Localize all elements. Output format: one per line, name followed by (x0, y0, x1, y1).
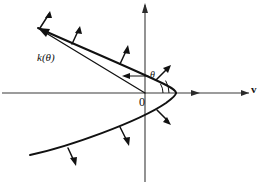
normal-arrow-upper-3 (156, 65, 171, 80)
horizontal-axis-inner-arrowhead (191, 90, 200, 96)
horizontal-axis-label-v: v (251, 84, 257, 95)
normal-arrowhead (45, 11, 52, 18)
normal-arrowhead (123, 137, 130, 146)
angle-pointer-arrowhead (122, 73, 130, 79)
normal-arrow-upper-2 (120, 45, 130, 64)
horizontal-axis (2, 90, 249, 96)
normal-arrowhead (70, 157, 77, 166)
normal-arrow-lower-1 (157, 110, 171, 125)
origin-label: 0 (139, 96, 145, 108)
vertical-axis-arrowhead-top (142, 3, 148, 13)
normal-arrowhead (123, 45, 130, 54)
radial-ray-shaft (46, 33, 145, 93)
parabola-lower-branch (30, 93, 176, 155)
normal-arrow-upper-endpoint (40, 11, 52, 28)
normal-arrowhead (75, 26, 82, 34)
parabola-curve-group (30, 28, 176, 155)
normal-arrow-lower-3 (68, 148, 77, 166)
angle-arc-inner (160, 84, 163, 93)
angle-arc-outer (166, 81, 169, 93)
normal-arrow-upper-1 (72, 26, 82, 44)
normal-arrow-lower-2 (120, 127, 130, 146)
diagram-svg (0, 0, 264, 188)
figure-canvas: k(θ) θ 0 v (0, 0, 264, 188)
parabola-upper-branch (38, 28, 176, 93)
radial-ray-arrowhead (38, 28, 50, 37)
horizontal-axis-arrowhead-right (241, 90, 249, 96)
curve-label-k-theta: k(θ) (37, 52, 55, 63)
angle-label-theta: θ (150, 70, 155, 80)
